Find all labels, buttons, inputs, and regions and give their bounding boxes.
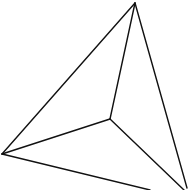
edge-left-bottom_edge_exit [2,154,150,190]
edge-top-inner [110,3,135,119]
edge-inner-bottom_right [110,119,184,190]
edge-top-left [2,3,135,154]
edge-top-bottom_right [135,3,187,188]
tetrahedron-diagram [0,0,188,190]
